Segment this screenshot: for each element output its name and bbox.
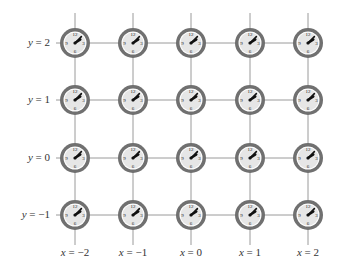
clock-icon: 12369 bbox=[176, 85, 206, 115]
clock-numeral: 12 bbox=[131, 89, 137, 94]
clock-numeral: 12 bbox=[189, 32, 195, 37]
clock-numeral: 12 bbox=[248, 204, 254, 209]
clock-center-pin bbox=[189, 98, 192, 101]
clock-center-pin bbox=[306, 41, 309, 44]
clock-numeral: 12 bbox=[248, 89, 254, 94]
clock-numeral: 12 bbox=[189, 204, 195, 209]
clock-icon: 12369 bbox=[235, 85, 265, 115]
clock-center-pin bbox=[73, 213, 76, 216]
clock-numeral: 12 bbox=[131, 204, 137, 209]
clock-numeral: 12 bbox=[248, 32, 254, 37]
column-label-x: x = −1 bbox=[108, 246, 158, 258]
row-label-y: y = 1 bbox=[6, 93, 50, 105]
column-label-x: x = 1 bbox=[225, 246, 275, 258]
clock-icon: 12369 bbox=[176, 28, 206, 58]
clock-center-pin bbox=[131, 213, 134, 216]
clock-numeral: 12 bbox=[306, 204, 312, 209]
clock-icon: 12369 bbox=[293, 85, 323, 115]
clock-numeral: 12 bbox=[189, 89, 195, 94]
clock-icon: 12369 bbox=[176, 200, 206, 230]
clock-center-pin bbox=[306, 213, 309, 216]
row-label-y: y = 0 bbox=[6, 151, 50, 163]
clock-numeral: 12 bbox=[73, 147, 79, 152]
clock-icon: 12369 bbox=[60, 28, 90, 58]
clock-icon: 12369 bbox=[118, 200, 148, 230]
clock-icon: 12369 bbox=[235, 28, 265, 58]
clock-center-pin bbox=[189, 41, 192, 44]
clock-icon: 12369 bbox=[118, 143, 148, 173]
clock-numeral: 12 bbox=[73, 204, 79, 209]
clock-center-pin bbox=[73, 156, 76, 159]
clock-numeral: 12 bbox=[73, 32, 79, 37]
clock-center-pin bbox=[189, 156, 192, 159]
clock-icon: 12369 bbox=[176, 143, 206, 173]
column-label-x: x = 2 bbox=[283, 246, 333, 258]
clock-numeral: 12 bbox=[131, 147, 137, 152]
clock-center-pin bbox=[131, 41, 134, 44]
clock-numeral: 12 bbox=[248, 147, 254, 152]
clock-center-pin bbox=[248, 41, 251, 44]
clock-center-pin bbox=[248, 156, 251, 159]
clock-numeral: 12 bbox=[189, 147, 195, 152]
clock-icon: 12369 bbox=[60, 143, 90, 173]
row-label-y: y = 2 bbox=[6, 36, 50, 48]
clock-numeral: 12 bbox=[306, 32, 312, 37]
clock-center-pin bbox=[248, 98, 251, 101]
clock-icon: 12369 bbox=[235, 200, 265, 230]
clock-center-pin bbox=[73, 41, 76, 44]
clock-icon: 12369 bbox=[60, 200, 90, 230]
clock-icon: 12369 bbox=[60, 85, 90, 115]
clock-numeral: 12 bbox=[306, 147, 312, 152]
row-label-y: y = −1 bbox=[6, 208, 50, 220]
clock-icon: 12369 bbox=[118, 85, 148, 115]
clock-numeral: 12 bbox=[73, 89, 79, 94]
column-label-x: x = 0 bbox=[166, 246, 216, 258]
clock-center-pin bbox=[306, 156, 309, 159]
clock-icon: 12369 bbox=[293, 143, 323, 173]
clock-center-pin bbox=[73, 98, 76, 101]
clock-grid-diagram: 1236912369123691236912369123691236912369… bbox=[0, 0, 351, 266]
grid-lines: 1236912369123691236912369123691236912369… bbox=[0, 0, 351, 266]
clock-icon: 12369 bbox=[293, 28, 323, 58]
clock-center-pin bbox=[248, 213, 251, 216]
clock-center-pin bbox=[306, 98, 309, 101]
clock-icon: 12369 bbox=[235, 143, 265, 173]
clock-icon: 12369 bbox=[293, 200, 323, 230]
clock-icon: 12369 bbox=[118, 28, 148, 58]
clock-center-pin bbox=[131, 98, 134, 101]
clock-center-pin bbox=[189, 213, 192, 216]
clock-center-pin bbox=[131, 156, 134, 159]
clock-numeral: 12 bbox=[306, 89, 312, 94]
clock-numeral: 12 bbox=[131, 32, 137, 37]
column-label-x: x = −2 bbox=[50, 246, 100, 258]
